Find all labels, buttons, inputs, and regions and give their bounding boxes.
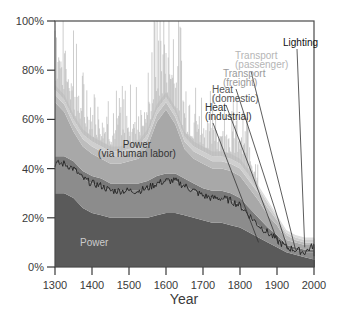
- x-tick-label: 1800: [228, 279, 252, 291]
- x-tick-label: 1900: [265, 279, 289, 291]
- annotation-transport-passenger-2: (passenger): [235, 59, 288, 70]
- y-tick-label: 80%: [22, 64, 44, 76]
- annotation-heat-industrial-2: (industrial): [205, 111, 252, 122]
- y-tick-label: 40%: [22, 163, 44, 175]
- x-tick-label: 1500: [117, 279, 141, 291]
- annotation-lighting: Lighting: [283, 37, 318, 48]
- x-axis-title: Year: [170, 291, 199, 307]
- x-tick-label: 2000: [302, 279, 326, 291]
- x-tick-label: 1700: [191, 279, 215, 291]
- annotation-power-human-2: (via human labor): [98, 148, 176, 159]
- annotation-transport-freight-2: (freight): [223, 77, 257, 88]
- leader-line-lighting: [297, 49, 305, 247]
- y-tick-label: 0%: [28, 261, 44, 273]
- y-tick-label: 20%: [22, 212, 44, 224]
- y-axis: 0%20%40%60%80%100%: [16, 15, 55, 273]
- x-tick-label: 1400: [80, 279, 104, 291]
- annotation-power: Power: [80, 237, 109, 248]
- x-axis: 13001400150016001700180019002000: [43, 267, 326, 291]
- x-tick-label: 1300: [43, 279, 67, 291]
- annotation-heat-domestic-2: (domestic): [212, 93, 259, 104]
- y-tick-label: 60%: [22, 113, 44, 125]
- stacked-area-chart: 13001400150016001700180019002000 0%20%40…: [0, 0, 341, 323]
- y-tick-label: 100%: [16, 15, 44, 27]
- x-tick-label: 1600: [154, 279, 178, 291]
